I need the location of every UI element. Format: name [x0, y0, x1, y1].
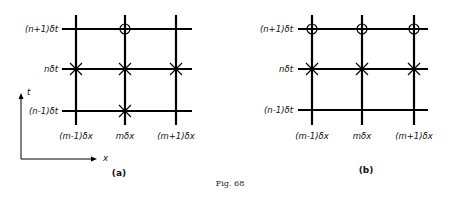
- space-label: (m+1)δx: [157, 131, 196, 141]
- figure-68: (n+1)δt nδt (n-1)δt (m-1)δx mδx (m+1)δx …: [0, 0, 457, 197]
- panel-caption: (b): [359, 165, 374, 175]
- time-label: nδt: [279, 64, 294, 74]
- space-label: (m-1)δx: [59, 131, 94, 141]
- space-label: (m+1)δx: [395, 131, 434, 141]
- panel-caption: (a): [112, 168, 126, 178]
- space-label: mδx: [116, 131, 135, 141]
- time-label: (n+1)δt: [260, 24, 294, 34]
- panel-b: (n+1)δt nδt (n-1)δt (m-1)δx mδx (m+1)δx …: [260, 15, 434, 175]
- time-label: (n-1)δt: [29, 106, 59, 116]
- space-label: mδx: [353, 131, 372, 141]
- time-label: (n+1)δt: [25, 24, 59, 34]
- time-label: nδt: [44, 64, 59, 74]
- time-label: (n-1)δt: [264, 105, 294, 115]
- x-axis-label: x: [102, 153, 109, 163]
- axes: t x: [19, 87, 110, 163]
- space-label: (m-1)δx: [295, 131, 330, 141]
- panel-a: (n+1)δt nδt (n-1)δt (m-1)δx mδx (m+1)δx …: [19, 15, 196, 178]
- arrow-right-icon: [91, 157, 97, 162]
- t-axis-label: t: [27, 87, 31, 97]
- arrow-up-icon: [19, 93, 24, 99]
- figure-caption: Fig. 68: [216, 179, 245, 188]
